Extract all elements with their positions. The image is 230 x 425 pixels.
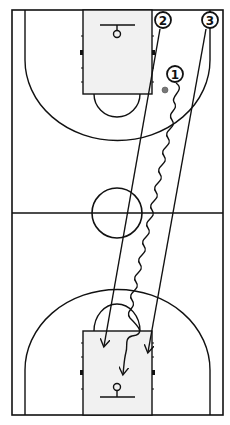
svg-text:2: 2 <box>159 14 167 28</box>
svg-text:1: 1 <box>171 68 179 82</box>
player-1-marker: 1 <box>167 66 183 82</box>
top-key <box>83 10 152 94</box>
player-2-marker: 2 <box>155 12 171 28</box>
basketball-icon <box>162 87 168 93</box>
basketball-court-diagram: 1 2 3 <box>0 0 230 425</box>
bottom-key <box>83 331 152 415</box>
svg-text:3: 3 <box>206 14 214 28</box>
bottom-free-throw-semicircle <box>94 304 140 331</box>
player-3-marker: 3 <box>202 12 218 28</box>
top-free-throw-semicircle <box>94 94 140 117</box>
